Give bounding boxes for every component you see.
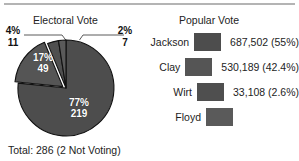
callout-left-percent: 4% [2, 26, 24, 36]
callout-left-4-percent: 4% 11 [2, 26, 24, 48]
vote-value-jackson: 687,502 (55%) [221, 36, 299, 48]
electoral-vote-panel: Electoral Vote 4% 11 [0, 0, 148, 161]
popular-vote-panel: Popular Vote Jackson 687,502 (55%) Clay … [148, 0, 299, 161]
slice-label-clay-count: 49 [28, 63, 58, 74]
callout-left-count: 11 [2, 37, 24, 48]
table-row: Clay 530,189 (42.4%) [148, 56, 299, 78]
callout-right-percent: 2% [114, 26, 136, 36]
callout-right-count: 7 [114, 37, 136, 48]
table-row: Wirt 33,108 (2.6%) [148, 81, 299, 103]
vote-value-clay: 530,189 (42.4%) [212, 61, 299, 73]
vote-value-wirt: 33,108 (2.6%) [224, 86, 299, 98]
slice-label-clay: 17% 49 [28, 52, 58, 74]
figure-root: Electoral Vote 4% 11 [0, 0, 299, 161]
electoral-chart-title: Electoral Vote [33, 15, 98, 26]
color-swatch-wirt [197, 83, 224, 101]
candidate-name-floyd: Floyd [148, 111, 206, 123]
color-swatch-jackson [194, 33, 221, 51]
candidate-name-wirt: Wirt [148, 86, 197, 98]
candidate-name-clay: Clay [148, 61, 185, 73]
slice-label-clay-percent: 17% [28, 52, 58, 63]
popular-vote-table: Jackson 687,502 (55%) Clay 530,189 (42.4… [148, 31, 299, 131]
table-row: Floyd [148, 106, 299, 128]
slice-label-jackson-percent: 77% [62, 97, 96, 108]
popular-vote-title: Popular Vote [179, 15, 239, 26]
slice-label-jackson-count: 219 [62, 108, 96, 119]
color-swatch-clay [185, 58, 212, 76]
color-swatch-floyd [206, 108, 233, 126]
slice-label-jackson: 77% 219 [62, 97, 96, 119]
electoral-total-note: Total: 286 (2 Not Voting) [8, 145, 121, 156]
candidate-name-jackson: Jackson [148, 36, 194, 48]
callout-right-2-percent: 2% 7 [114, 26, 136, 48]
table-row: Jackson 687,502 (55%) [148, 31, 299, 53]
